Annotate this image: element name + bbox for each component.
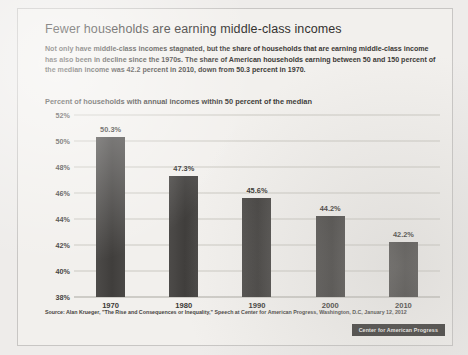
- y-axis-tick-label: 42%: [56, 241, 70, 250]
- bar-value-label: 50.3%: [100, 125, 121, 134]
- y-axis-tick-label: 44%: [56, 215, 70, 224]
- bar: [242, 198, 271, 297]
- bar-group: 47.3%1980: [147, 115, 220, 297]
- bar-group: 50.3%1970: [74, 115, 147, 297]
- organization-badge: Center for American Progress: [352, 324, 445, 336]
- chart-axis-title: Percent of households with annual income…: [45, 97, 312, 106]
- subtitle-paragraph: Not only have middle-class incomes stagn…: [45, 44, 437, 76]
- bar: [169, 176, 198, 297]
- bar-group: 42.2%2010: [367, 115, 440, 297]
- bar-value-label: 42.2%: [393, 230, 414, 239]
- screenshot-page: Fewer households are earning middle-clas…: [0, 0, 468, 355]
- bar-value-label: 45.6%: [247, 186, 268, 195]
- y-axis-tick-label: 50%: [56, 137, 70, 146]
- y-axis-tick-label: 40%: [56, 267, 70, 276]
- bar-chart: 38%40%42%44%46%48%50%52% 50.3%197047.3%1…: [40, 115, 440, 297]
- bar-value-label: 47.3%: [173, 164, 194, 173]
- source-note: Source: Alan Krueger, "The Rise and Cons…: [45, 309, 407, 315]
- bar: [389, 242, 418, 297]
- page-title: Fewer households are earning middle-clas…: [45, 22, 342, 36]
- y-axis-labels: 38%40%42%44%46%48%50%52%: [40, 115, 74, 297]
- y-axis-tick-label: 48%: [56, 163, 70, 172]
- y-axis-tick-label: 46%: [56, 189, 70, 198]
- report-card: Fewer households are earning middle-clas…: [18, 9, 452, 345]
- bar: [96, 137, 125, 297]
- bar-value-label: 44.2%: [320, 204, 341, 213]
- bar: [316, 216, 345, 297]
- y-axis-tick-label: 38%: [56, 293, 70, 302]
- bar-group: 44.2%2000: [294, 115, 367, 297]
- y-axis-tick-label: 52%: [56, 111, 70, 120]
- chart-bars: 50.3%197047.3%198045.6%199044.2%200042.2…: [74, 115, 440, 297]
- bar-group: 45.6%1990: [220, 115, 293, 297]
